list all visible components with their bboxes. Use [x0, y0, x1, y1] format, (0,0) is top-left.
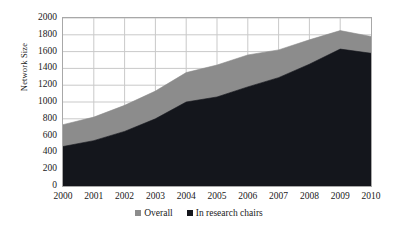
y-tick-label: 2000	[17, 13, 57, 23]
y-tick-label: 0	[17, 181, 57, 191]
y-tick-label: 200	[17, 164, 57, 174]
x-tick-label: 2007	[269, 192, 288, 202]
chart-legend: OverallIn research chairs	[0, 208, 398, 218]
x-tick-label: 2008	[300, 192, 319, 202]
area-chart-figure: Network Size 020040060080010001200140016…	[0, 0, 398, 238]
x-tick-label: 2001	[84, 192, 103, 202]
legend-item[interactable]: Overall	[135, 208, 173, 218]
y-tick-label: 1400	[17, 64, 57, 74]
y-tick-label: 800	[17, 114, 57, 124]
plot-svg	[63, 18, 371, 186]
y-tick-label: 1800	[17, 30, 57, 40]
x-tick-label: 2005	[208, 192, 227, 202]
y-tick-label: 400	[17, 148, 57, 158]
legend-label: In research chairs	[196, 208, 263, 218]
y-tick-label: 1600	[17, 47, 57, 57]
y-tick-label: 600	[17, 131, 57, 141]
legend-label: Overall	[144, 208, 173, 218]
x-axis-tick-labels: 2000200120022003200420052006200720082009…	[62, 190, 372, 206]
x-tick-label: 2000	[54, 192, 73, 202]
x-tick-label: 2003	[146, 192, 165, 202]
x-tick-label: 2004	[177, 192, 196, 202]
y-tick-label: 1200	[17, 80, 57, 90]
x-tick-label: 2006	[238, 192, 257, 202]
x-tick-label: 2009	[331, 192, 350, 202]
legend-item[interactable]: In research chairs	[187, 208, 263, 218]
y-axis-tick-labels: 0200400600800100012001400160018002000	[18, 17, 60, 187]
legend-swatch-icon	[187, 210, 193, 216]
legend-swatch-icon	[135, 210, 141, 216]
x-tick-label: 2010	[362, 192, 381, 202]
x-tick-label: 2002	[115, 192, 134, 202]
plot-area	[62, 17, 372, 187]
y-tick-label: 1000	[17, 97, 57, 107]
